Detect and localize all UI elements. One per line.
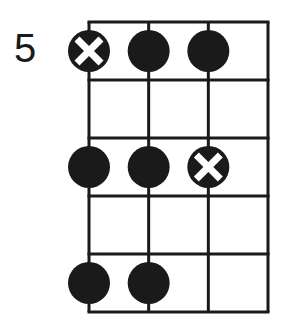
note-dot bbox=[128, 146, 170, 188]
note-dot bbox=[68, 262, 110, 304]
note-dot bbox=[68, 146, 110, 188]
note-dot bbox=[128, 262, 170, 304]
note-dot bbox=[128, 30, 170, 72]
note-dot bbox=[187, 30, 229, 72]
fretboard-grid bbox=[0, 0, 294, 330]
